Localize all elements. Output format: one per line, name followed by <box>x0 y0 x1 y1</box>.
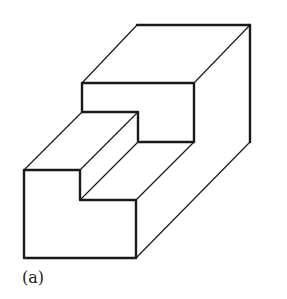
step-top-corner-diagonal <box>80 112 138 170</box>
step-left-diagonal <box>24 112 82 170</box>
top-left-diagonal <box>82 25 137 83</box>
bottom-right-diagonal <box>136 142 250 258</box>
isometric-stepped-block-diagram <box>0 0 287 299</box>
front-face-outline <box>24 170 136 258</box>
figure-label: (a) <box>22 268 44 287</box>
top-right-diagonal <box>194 25 250 83</box>
front-right-diagonal <box>136 142 194 200</box>
step-inner-diagonal <box>80 142 138 200</box>
